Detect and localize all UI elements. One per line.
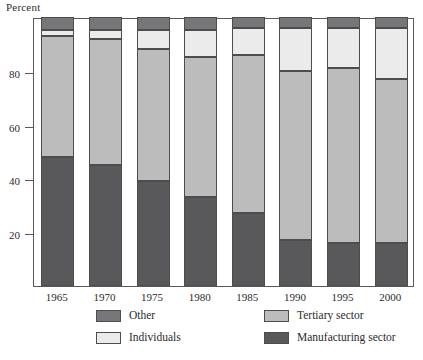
bar-2000 [375,17,408,286]
bar-segment-tertiary-1970 [89,39,122,165]
legend-swatch-individuals [96,332,121,344]
bar-segment-individuals-1995 [327,28,360,68]
legend-item-manufacturing[interactable]: Manufacturing sector [264,332,396,344]
bar-segment-other-1995 [327,17,360,28]
y-axis-tick-20: 20 [25,234,34,235]
bar-1980 [184,17,217,286]
legend-swatch-tertiary [264,310,289,322]
bar-segment-individuals-1975 [137,30,170,49]
y-axis-tick-label-60: 60 [9,121,20,133]
bar-segment-manufacturing-1965 [41,157,74,286]
bar-segment-manufacturing-1985 [232,213,265,286]
bar-segment-other-1985 [232,17,265,28]
bar-segment-tertiary-2000 [375,79,408,243]
bar-segment-other-2000 [375,17,408,28]
y-axis-caption: Percent [6,1,40,13]
x-axis-label-1985: 1985 [224,291,272,303]
y-axis-tick-label-20: 20 [9,229,20,241]
x-axis-label-2000: 2000 [366,291,414,303]
x-axis-label-1990: 1990 [271,291,319,303]
legend-item-other[interactable]: Other [96,310,155,322]
bar-segment-individuals-1965 [41,30,74,35]
x-axis-label-1965: 1965 [33,291,81,303]
x-axis-label-1995: 1995 [319,291,367,303]
bar-segment-individuals-2000 [375,28,408,79]
legend-swatch-manufacturing [264,332,289,344]
bar-segment-manufacturing-1975 [137,181,170,286]
y-axis-tick-60: 60 [25,127,34,128]
bar-segment-other-1990 [279,17,312,28]
bar-segment-tertiary-1990 [279,71,312,240]
bar-1970 [89,17,122,286]
legend-label-tertiary: Tertiary sector [297,310,364,322]
bar-segment-manufacturing-1980 [184,197,217,286]
x-axis-label-1970: 1970 [81,291,129,303]
bar-segment-other-1965 [41,17,74,30]
plot-inner: 20406080 [34,19,413,286]
bar-segment-other-1980 [184,17,217,30]
bar-1995 [327,17,360,286]
y-axis-tick-label-80: 80 [9,68,20,80]
bar-segment-manufacturing-1995 [327,243,360,286]
bar-segment-tertiary-1995 [327,68,360,243]
bar-segment-manufacturing-1970 [89,165,122,286]
legend-item-individuals[interactable]: Individuals [96,332,181,344]
bar-segment-individuals-1970 [89,30,122,38]
bar-segment-individuals-1980 [184,30,217,57]
y-axis-tick-80: 80 [25,73,34,74]
bar-segment-manufacturing-1990 [279,240,312,286]
bar-segment-other-1970 [89,17,122,30]
bar-segment-tertiary-1985 [232,55,265,214]
x-axis-label-1975: 1975 [128,291,176,303]
stacked-bar-chart-figure: Percent 20406080 OtherTertiary sectorInd… [0,0,423,360]
bar-segment-tertiary-1965 [41,36,74,157]
chart-legend: OtherTertiary sectorIndividualsManufactu… [96,308,416,352]
bar-segment-manufacturing-2000 [375,243,408,286]
plot-area: 20406080 [33,18,414,287]
bar-segment-other-1975 [137,17,170,30]
legend-label-manufacturing: Manufacturing sector [297,332,396,344]
legend-item-tertiary[interactable]: Tertiary sector [264,310,364,322]
bar-1965 [41,17,74,286]
x-axis-label-1980: 1980 [176,291,224,303]
bar-segment-tertiary-1975 [137,49,170,181]
y-axis-tick-label-40: 40 [9,175,20,187]
bar-1975 [137,17,170,286]
bar-segment-tertiary-1980 [184,57,217,197]
legend-label-other: Other [129,310,155,322]
bar-segment-individuals-1990 [279,28,312,71]
y-axis-tick-40: 40 [25,180,34,181]
bar-1985 [232,17,265,286]
bar-segment-individuals-1985 [232,28,265,55]
legend-label-individuals: Individuals [129,332,181,344]
legend-swatch-other [96,310,121,322]
bar-1990 [279,17,312,286]
